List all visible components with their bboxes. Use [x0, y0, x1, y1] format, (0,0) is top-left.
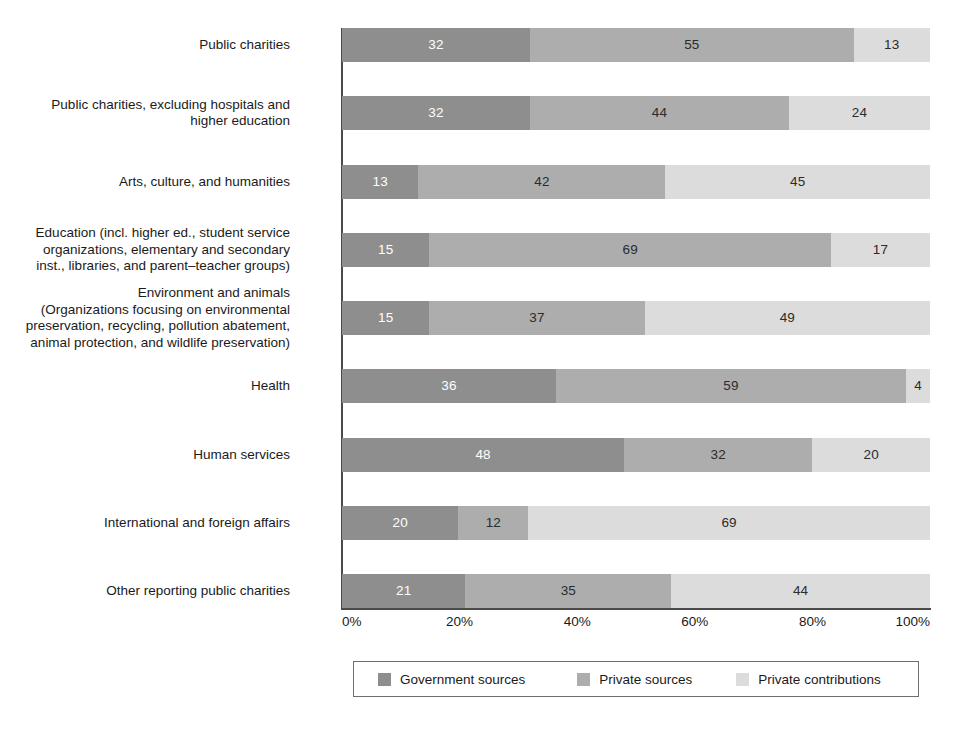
bar-segment-private-contributions: 49 — [645, 301, 930, 335]
bar-row: 153749 — [342, 301, 930, 335]
bar-segment-government-sources: 15 — [342, 233, 429, 267]
legend-label: Private sources — [599, 672, 692, 687]
bar-segment-private-contributions: 69 — [528, 506, 930, 540]
legend-swatch-government-sources — [378, 673, 391, 686]
bar-segment-government-sources: 20 — [342, 506, 458, 540]
bar-segment-private-sources: 59 — [556, 369, 906, 403]
bar-segment-private-sources: 35 — [465, 574, 671, 608]
bar-segment-government-sources: 21 — [342, 574, 465, 608]
legend-label: Government sources — [400, 672, 525, 687]
category-label: Public charities — [0, 37, 290, 54]
x-tick-label: 20% — [446, 614, 473, 629]
legend-item: Private sources — [577, 672, 692, 687]
bar-segment-private-contributions: 13 — [854, 28, 930, 62]
category-label: Public charities, excluding hospitals an… — [0, 97, 290, 130]
bar-row: 156917 — [342, 233, 930, 267]
bar-segment-private-sources: 55 — [530, 28, 853, 62]
bar-segment-private-contributions: 44 — [671, 574, 930, 608]
bar-row: 483220 — [342, 438, 930, 472]
bar-row: 36594 — [342, 369, 930, 403]
bar-segment-government-sources: 36 — [342, 369, 556, 403]
bar-row: 213544 — [342, 574, 930, 608]
bar-segment-private-contributions: 17 — [831, 233, 930, 267]
bar-segment-government-sources: 32 — [342, 28, 530, 62]
bar-segment-private-sources: 44 — [530, 96, 789, 130]
plot-area: 3255133244241342451569171537493659448322… — [342, 28, 930, 608]
x-tick-label: 40% — [564, 614, 591, 629]
bar-row: 201269 — [342, 506, 930, 540]
legend-item: Private contributions — [736, 672, 880, 687]
bar-segment-private-sources: 37 — [429, 301, 644, 335]
x-tick-label: 80% — [799, 614, 826, 629]
category-label: Environment and animals (Organizations f… — [0, 285, 290, 351]
legend-swatch-private-sources — [577, 673, 590, 686]
category-label: Health — [0, 378, 290, 395]
bar-row: 325513 — [342, 28, 930, 62]
bar-segment-private-contributions: 20 — [812, 438, 930, 472]
bar-segment-private-contributions: 24 — [789, 96, 930, 130]
x-tick-label: 60% — [681, 614, 708, 629]
bar-row: 134245 — [342, 165, 930, 199]
x-tick-label: 0% — [342, 614, 362, 629]
bar-row: 324424 — [342, 96, 930, 130]
bar-segment-government-sources: 32 — [342, 96, 530, 130]
stacked-bar-chart: 3255133244241342451569171537493659448322… — [0, 0, 972, 732]
bar-segment-government-sources: 48 — [342, 438, 624, 472]
chart-legend: Government sourcesPrivate sourcesPrivate… — [353, 661, 919, 697]
category-label: Education (incl. higher ed., student ser… — [0, 225, 290, 275]
bar-segment-private-contributions: 4 — [906, 369, 930, 403]
bar-segment-private-sources: 32 — [624, 438, 812, 472]
bar-segment-government-sources: 13 — [342, 165, 418, 199]
bar-segment-government-sources: 15 — [342, 301, 429, 335]
bar-segment-private-sources: 12 — [458, 506, 528, 540]
category-label: Arts, culture, and humanities — [0, 174, 290, 191]
category-label: Human services — [0, 447, 290, 464]
legend-item: Government sources — [378, 672, 525, 687]
x-axis-tick-labels: 0%20%40%60%80%100% — [342, 614, 930, 636]
category-label: Other reporting public charities — [0, 583, 290, 600]
bar-segment-private-sources: 42 — [418, 165, 665, 199]
category-label: International and foreign affairs — [0, 515, 290, 532]
legend-swatch-private-contributions — [736, 673, 749, 686]
bar-segment-private-sources: 69 — [429, 233, 831, 267]
x-tick-label: 100% — [895, 614, 930, 629]
x-axis-line — [341, 608, 931, 610]
legend-label: Private contributions — [758, 672, 880, 687]
bar-segment-private-contributions: 45 — [665, 165, 930, 199]
